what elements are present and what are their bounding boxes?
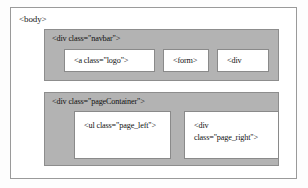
form-box: <form> (163, 49, 209, 72)
page-right-label: <div class="page_right"> (194, 120, 258, 144)
logo-box: <a class="logo"> (64, 49, 155, 72)
page-right-box: <div class="page_right"> (184, 111, 279, 159)
page-left-label: <ul class="page_left"> (84, 120, 156, 132)
navbar-label: <div class="navbar"> (52, 34, 120, 43)
navbar-div-box: <div (217, 49, 269, 72)
form-label: <form> (173, 55, 197, 67)
page-left-box: <ul class="page_left"> (74, 111, 171, 159)
page-container-label: <div class="pageContainer"> (52, 97, 145, 106)
body-frame: <body> <div class="navbar"> <a class="lo… (10, 7, 297, 179)
body-label: <body> (19, 14, 47, 24)
page-container: <div class="pageContainer"> <ul class="p… (44, 92, 279, 166)
navbar-div-label: <div (227, 55, 241, 67)
logo-label: <a class="logo"> (74, 55, 128, 67)
navbar-container: <div class="navbar"> <a class="logo"> <f… (44, 29, 279, 81)
diagram-canvas: <body> <div class="navbar"> <a class="lo… (0, 0, 308, 188)
